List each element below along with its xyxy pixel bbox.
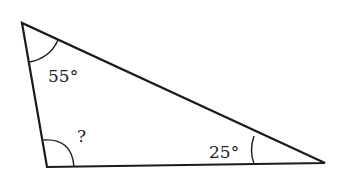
angle-label-top-left: 55°: [48, 66, 78, 86]
angle-arc-top-left: [30, 40, 59, 62]
angle-arc-bottom-left: [44, 140, 75, 167]
triangle-diagram: 55° ? 25°: [0, 0, 340, 180]
angle-label-right: 25°: [209, 142, 239, 162]
angle-arc-right: [252, 136, 255, 164]
angle-label-bottom-left: ?: [77, 126, 86, 146]
triangle: [22, 23, 325, 167]
